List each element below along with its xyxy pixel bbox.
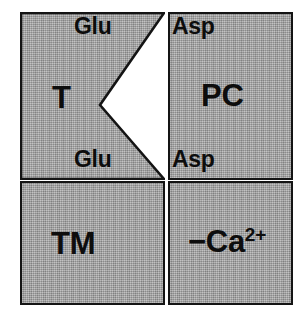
label-panel-t: T <box>52 82 71 113</box>
label-asp-top: Asp <box>172 15 215 38</box>
label-glu-bottom: Glu <box>74 148 111 171</box>
label-calcium-superscript: 2+ <box>245 224 266 245</box>
label-panel-calcium: −Ca2+ <box>188 226 266 257</box>
label-calcium-base: −Ca <box>188 224 245 259</box>
label-glu-top: Glu <box>74 15 111 38</box>
label-asp-bottom: Asp <box>172 148 215 171</box>
diagram-figure: Glu Glu Asp Asp T PC TM −Ca2+ <box>0 0 308 318</box>
label-panel-pc: PC <box>201 80 243 111</box>
label-panel-tm: TM <box>51 228 95 259</box>
